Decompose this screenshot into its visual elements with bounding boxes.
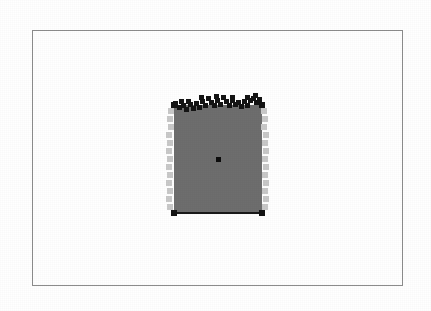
data-point-marker xyxy=(262,140,268,146)
data-point-marker xyxy=(167,156,173,162)
data-point-marker xyxy=(191,106,196,111)
data-point-marker xyxy=(218,102,223,107)
data-point-marker xyxy=(167,188,173,194)
data-point-marker xyxy=(263,196,269,202)
data-point-marker xyxy=(214,94,219,99)
plot-frame xyxy=(32,30,403,286)
data-point-marker xyxy=(263,132,269,138)
data-point-marker xyxy=(262,156,268,162)
data-point-marker xyxy=(171,210,177,216)
data-point-marker xyxy=(168,124,174,130)
data-point-marker xyxy=(199,95,204,100)
data-point-marker xyxy=(167,116,173,122)
data-point-marker xyxy=(167,140,173,146)
data-point-marker xyxy=(203,103,208,108)
data-point-marker xyxy=(261,108,267,114)
data-point-marker xyxy=(168,108,174,114)
data-point-marker xyxy=(257,97,262,102)
data-point-marker xyxy=(171,102,177,108)
data-point-marker xyxy=(179,99,184,104)
data-point-marker xyxy=(216,157,221,162)
data-point-marker xyxy=(227,103,232,108)
data-point-marker xyxy=(262,116,268,122)
data-point-marker xyxy=(263,164,269,170)
plot-canvas xyxy=(33,31,402,285)
data-point-marker xyxy=(184,107,189,112)
data-point-marker xyxy=(259,102,265,108)
data-point-marker xyxy=(166,132,172,138)
data-point-marker xyxy=(261,124,267,130)
data-point-marker xyxy=(263,180,269,186)
data-point-marker xyxy=(167,172,173,178)
data-point-marker xyxy=(166,164,172,170)
data-point-marker xyxy=(259,210,265,216)
figure-root xyxy=(0,0,431,311)
data-point-marker xyxy=(245,103,250,108)
data-point-marker xyxy=(239,104,244,109)
data-point-marker xyxy=(262,172,268,178)
data-point-marker xyxy=(166,196,172,202)
data-point-marker xyxy=(245,95,250,100)
data-point-marker xyxy=(212,103,217,108)
data-point-marker xyxy=(230,95,235,100)
data-point-marker xyxy=(263,148,269,154)
data-point-marker xyxy=(166,180,172,186)
data-point-marker xyxy=(262,188,268,194)
data-point-marker xyxy=(197,105,202,110)
data-point-marker xyxy=(186,99,191,104)
baseline-bottom-edge xyxy=(174,212,262,214)
data-point-marker xyxy=(166,148,172,154)
